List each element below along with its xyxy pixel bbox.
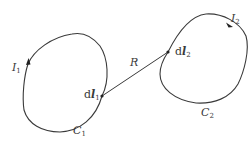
element-dl2-dot <box>166 50 169 53</box>
diagram-drawing <box>0 0 252 146</box>
curve-c1-label: C1 <box>73 125 86 138</box>
element-dl1-dot <box>100 94 103 97</box>
current-i1-arrow-icon <box>26 58 31 65</box>
current-i2-label: I2 <box>231 13 240 26</box>
element-dl1-label: dl1 <box>84 89 100 102</box>
diagram-canvas: I1 dl1 C1 R dl2 I2 C2 <box>0 0 252 146</box>
loop-c2 <box>160 14 247 103</box>
current-i1-label: I1 <box>12 62 21 75</box>
curve-c2-label: C2 <box>201 107 214 120</box>
loop-c1 <box>23 34 107 133</box>
element-dl2-label: dl2 <box>175 46 191 59</box>
separation-r-label: R <box>130 57 138 68</box>
